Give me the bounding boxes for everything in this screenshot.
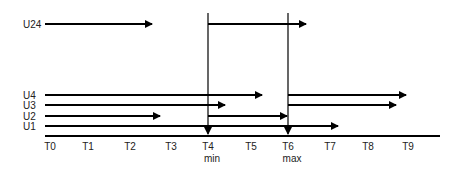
tick-label: T6 (282, 141, 294, 152)
row-label: U3 (23, 100, 36, 111)
tick-label: T1 (82, 141, 94, 152)
tick-labels: T0T1T2T3T4minT5T6maxT7T8T9 (44, 141, 414, 164)
tick-label: T9 (402, 141, 414, 152)
tick-label: T3 (165, 141, 177, 152)
tick-sublabel-min: min (204, 153, 220, 164)
tick-label: T7 (324, 141, 336, 152)
row-label: U1 (23, 121, 36, 132)
row-labels: U24U4U3U2U1 (23, 19, 42, 132)
tick-label: T5 (245, 141, 257, 152)
row-label: U24 (23, 19, 42, 30)
tick-label: T0 (44, 141, 56, 152)
tick-label: T2 (124, 141, 136, 152)
tick-sublabel-max: max (283, 153, 302, 164)
tick-label: T4 (202, 141, 214, 152)
timeline-diagram: U24U4U3U2U1 T0T1T2T3T4minT5T6maxT7T8T9 (0, 0, 461, 172)
tick-label: T8 (362, 141, 374, 152)
arrows-layer (45, 24, 406, 126)
